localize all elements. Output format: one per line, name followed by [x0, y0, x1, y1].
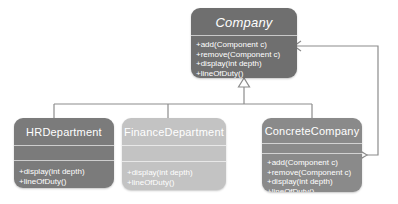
- uml-class-diagram: Company (part) --> Company +add(Componen…: [0, 0, 398, 204]
- class-methods-concrete-company: +add(Component c) +remove(Component c) +…: [262, 154, 362, 192]
- generalization-tree: [54, 78, 312, 118]
- class-methods-finance-department: +display(int depth) +lineOfDuty(): [122, 162, 226, 190]
- method-item: +lineOfDuty(): [127, 178, 226, 188]
- class-box-hr-department[interactable]: HRDepartment +display(int depth) +lineOf…: [14, 118, 114, 188]
- method-item: +display(int depth): [127, 168, 226, 178]
- class-name-concrete-company: ConcreteCompany: [262, 118, 362, 143]
- class-attributes-hr-department: [14, 146, 114, 160]
- method-item: +display(int depth): [19, 167, 114, 177]
- method-item: +remove(Component c): [196, 50, 297, 60]
- class-name-hr-department: HRDepartment: [14, 118, 114, 145]
- class-methods-hr-department: +display(int depth) +lineOfDuty(): [14, 161, 114, 188]
- method-item: +remove(Component c): [267, 168, 362, 178]
- method-item: +lineOfDuty(): [196, 69, 297, 79]
- method-item: +display(int depth): [196, 59, 297, 69]
- class-methods-company: +add(Component c) +remove(Component c) +…: [191, 36, 297, 78]
- class-box-company[interactable]: Company +add(Component c) +remove(Compon…: [191, 8, 297, 78]
- method-item: +lineOfDuty(): [267, 187, 362, 193]
- class-attributes-concrete-company: [262, 144, 362, 153]
- class-box-concrete-company[interactable]: ConcreteCompany +add(Component c) +remov…: [262, 118, 362, 192]
- method-item: +add(Component c): [267, 158, 362, 168]
- class-attributes-finance-department: [122, 146, 226, 161]
- class-box-finance-department[interactable]: FinanceDepartment +display(int depth) +l…: [122, 118, 226, 190]
- method-item: +add(Component c): [196, 40, 297, 50]
- inheritance-triangle-icon: [239, 78, 250, 87]
- method-item: +lineOfDuty(): [19, 177, 114, 187]
- method-item: +display(int depth): [267, 177, 362, 187]
- class-name-company: Company: [191, 8, 297, 35]
- class-name-finance-department: FinanceDepartment: [122, 118, 226, 145]
